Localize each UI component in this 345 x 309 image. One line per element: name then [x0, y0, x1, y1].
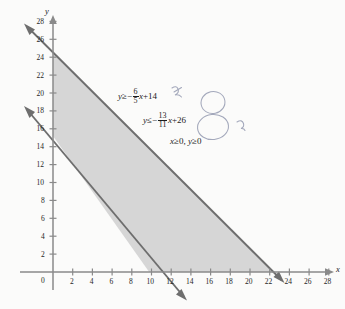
- x-tick-label-6: 6: [109, 277, 113, 286]
- inequality-2-numerator: 13: [158, 112, 168, 120]
- inequality-3: x≥0, y≥0: [170, 137, 258, 146]
- y-tick-label-14: 14: [37, 142, 45, 151]
- y-tick-label-28: 28: [37, 17, 45, 26]
- x-axis-label: x: [336, 264, 340, 274]
- x-tick-label-18: 18: [225, 277, 233, 286]
- x-tick-label-10: 10: [147, 277, 155, 286]
- x-tick-label-4: 4: [90, 277, 94, 286]
- x-tick-label-28: 28: [324, 277, 332, 286]
- y-tick-label-24: 24: [37, 53, 45, 62]
- x-tick-label-24: 24: [284, 277, 292, 286]
- y-tick-label-6: 6: [41, 214, 45, 223]
- inequality-1-denominator: 5: [133, 96, 139, 105]
- y-tick-label-26: 26: [37, 35, 45, 44]
- y-axis-label: y: [45, 6, 49, 16]
- y-tick-label-10: 10: [37, 178, 45, 187]
- inequality-1-constant: 14: [148, 91, 157, 101]
- inequality-3-comma: ,: [183, 136, 185, 146]
- y-tick-label-12: 12: [37, 160, 45, 169]
- inequality-graph-figure: [0, 0, 345, 309]
- inequality-2-constant: 26: [177, 115, 186, 125]
- inequality-1: y≥− 6 5 x+14: [118, 88, 258, 105]
- x-tick-label-14: 14: [186, 277, 194, 286]
- x-tick-label-16: 16: [206, 277, 214, 286]
- inequality-2: y≤− 13 11 x+26: [143, 112, 258, 129]
- inequality-1-numerator: 6: [133, 88, 139, 96]
- inequality-3-val-y: 0: [197, 136, 202, 146]
- y-tick-label-2: 2: [41, 250, 45, 259]
- inequality-1-sign: −: [127, 91, 132, 101]
- inequality-annotation-block: y≥− 6 5 x+14 y≤− 13 11 x+26 x≥0, y≥0: [118, 88, 258, 146]
- x-tick-label-20: 20: [245, 277, 253, 286]
- x-tick-label-22: 22: [265, 277, 273, 286]
- y-tick-label-16: 16: [37, 124, 45, 133]
- x-tick-label-8: 8: [129, 277, 133, 286]
- y-tick-label-18: 18: [37, 106, 45, 115]
- x-tick-label-26: 26: [304, 277, 312, 286]
- inequality-2-fraction: 13 11: [158, 112, 168, 129]
- y-tick-label-8: 8: [41, 196, 45, 205]
- inequality-2-denominator: 11: [158, 120, 168, 129]
- inequality-1-fraction: 6 5: [133, 88, 139, 105]
- y-tick-label-4: 4: [41, 232, 45, 241]
- inequality-2-sign: −: [152, 115, 157, 125]
- y-tick-label-20: 20: [37, 89, 45, 98]
- origin-label: 0: [41, 276, 45, 285]
- x-tick-label-12: 12: [166, 277, 174, 286]
- x-tick-label-2: 2: [70, 277, 74, 286]
- y-tick-label-22: 22: [37, 71, 45, 80]
